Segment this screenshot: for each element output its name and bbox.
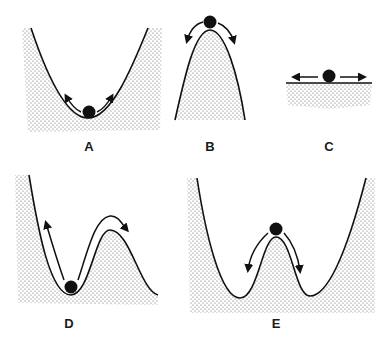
double-well-surface (187, 178, 375, 313)
equilibrium-diagram (0, 0, 387, 344)
panel-d (15, 175, 158, 305)
ball (323, 70, 336, 83)
ball (65, 281, 78, 294)
ball (270, 223, 283, 236)
label-a: A (79, 139, 99, 154)
panel-e (187, 178, 375, 313)
well-surface (15, 175, 158, 305)
flat-surface (286, 83, 372, 109)
panel-b (175, 16, 245, 121)
label-e: E (266, 316, 286, 331)
label-b: B (200, 139, 220, 154)
ball (204, 16, 217, 29)
label-d: D (59, 316, 79, 331)
ball (83, 106, 96, 119)
panel-a (22, 28, 162, 132)
panel-c (286, 70, 372, 110)
label-c: C (319, 139, 339, 154)
